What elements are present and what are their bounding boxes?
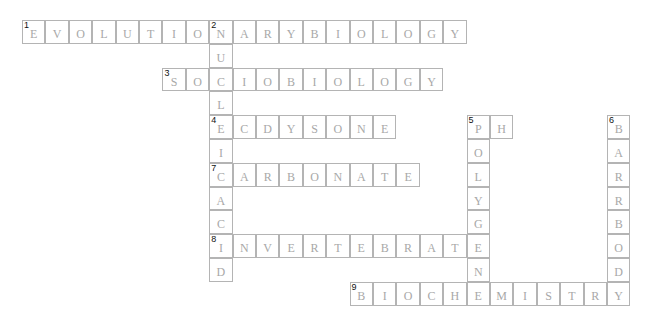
crossword-cell[interactable]: Y — [420, 68, 443, 92]
crossword-cell[interactable]: B — [303, 20, 326, 44]
crossword-cell[interactable]: R — [584, 282, 607, 306]
crossword-cell[interactable]: Y — [279, 20, 302, 44]
crossword-cell[interactable]: O — [396, 282, 419, 306]
crossword-cell[interactable]: G — [396, 68, 419, 92]
crossword-cell[interactable]: I — [373, 282, 396, 306]
crossword-cell[interactable]: 4E — [209, 115, 232, 139]
crossword-cell[interactable]: U — [116, 20, 139, 44]
crossword-cell[interactable]: A — [420, 234, 443, 258]
crossword-cell[interactable]: E — [396, 163, 419, 187]
crossword-cell[interactable]: O — [326, 68, 349, 92]
crossword-cell[interactable]: L — [373, 20, 396, 44]
crossword-cell[interactable]: R — [303, 234, 326, 258]
cell-letter: R — [257, 26, 278, 42]
crossword-cell[interactable]: A — [233, 20, 256, 44]
crossword-cell[interactable]: E — [350, 234, 373, 258]
crossword-cell[interactable]: L — [467, 163, 490, 187]
crossword-cell[interactable]: C — [420, 282, 443, 306]
crossword-cell[interactable]: V — [256, 234, 279, 258]
crossword-cell[interactable]: T — [139, 20, 162, 44]
crossword-cell[interactable]: I — [303, 68, 326, 92]
crossword-cell[interactable]: E — [279, 234, 302, 258]
crossword-cell[interactable]: C — [209, 210, 232, 234]
crossword-cell[interactable]: B — [607, 210, 630, 234]
crossword-cell[interactable]: 1E — [22, 20, 45, 44]
crossword-cell[interactable]: I — [209, 139, 232, 163]
crossword-cell[interactable]: L — [209, 91, 232, 115]
crossword-cell[interactable]: T — [373, 163, 396, 187]
crossword-cell[interactable]: N — [326, 163, 349, 187]
crossword-cell[interactable]: D — [209, 258, 232, 282]
crossword-cell[interactable]: H — [443, 282, 466, 306]
crossword-cell[interactable]: R — [256, 20, 279, 44]
crossword-cell[interactable]: R — [607, 163, 630, 187]
crossword-cell[interactable]: I — [233, 68, 256, 92]
cell-letter: N — [234, 240, 255, 256]
crossword-cell[interactable]: T — [443, 234, 466, 258]
crossword-cell[interactable]: E — [467, 282, 490, 306]
crossword-cell[interactable]: 9B — [350, 282, 373, 306]
cell-letter: A — [351, 169, 372, 185]
crossword-cell[interactable]: D — [607, 258, 630, 282]
crossword-cell[interactable]: E — [467, 234, 490, 258]
crossword-cell[interactable]: G — [420, 20, 443, 44]
crossword-cell[interactable]: 2N — [209, 20, 232, 44]
crossword-cell[interactable]: N — [467, 258, 490, 282]
crossword-cell[interactable]: O — [396, 20, 419, 44]
crossword-cell[interactable]: V — [45, 20, 68, 44]
crossword-cell[interactable]: A — [209, 187, 232, 211]
crossword-cell[interactable]: I — [326, 20, 349, 44]
crossword-cell[interactable]: T — [326, 234, 349, 258]
crossword-cell[interactable]: O — [186, 68, 209, 92]
crossword-cell[interactable]: Y — [279, 115, 302, 139]
crossword-cell[interactable]: I — [513, 282, 536, 306]
crossword-cell[interactable]: T — [560, 282, 583, 306]
crossword-cell[interactable]: I — [162, 20, 185, 44]
crossword-cell[interactable]: C — [233, 115, 256, 139]
crossword-cell[interactable]: O — [467, 139, 490, 163]
crossword-cell[interactable]: S — [303, 115, 326, 139]
cell-letter: U — [210, 50, 231, 66]
crossword-cell[interactable]: E — [373, 115, 396, 139]
crossword-cell[interactable]: N — [350, 115, 373, 139]
crossword-cell[interactable]: B — [279, 163, 302, 187]
crossword-cell[interactable]: O — [69, 20, 92, 44]
crossword-cell[interactable]: D — [256, 115, 279, 139]
crossword-cell[interactable]: B — [279, 68, 302, 92]
crossword-cell[interactable]: Y — [443, 20, 466, 44]
crossword-cell[interactable]: 5P — [467, 115, 490, 139]
crossword-cell[interactable]: N — [233, 234, 256, 258]
crossword-cell[interactable]: 3S — [162, 68, 185, 92]
crossword-cell[interactable]: Y — [467, 187, 490, 211]
crossword-cell[interactable]: O — [350, 20, 373, 44]
crossword-cell[interactable]: R — [256, 163, 279, 187]
crossword-cell[interactable]: 6B — [607, 115, 630, 139]
crossword-cell[interactable]: O — [303, 163, 326, 187]
crossword-cell[interactable]: Y — [607, 282, 630, 306]
crossword-cell[interactable]: 8I — [209, 234, 232, 258]
crossword-cell[interactable]: 7C — [209, 163, 232, 187]
crossword-cell[interactable]: A — [233, 163, 256, 187]
crossword-cell[interactable]: O — [256, 68, 279, 92]
crossword-cell[interactable]: O — [607, 234, 630, 258]
crossword-cell[interactable]: O — [373, 68, 396, 92]
crossword-cell[interactable]: B — [373, 234, 396, 258]
cell-letter: C — [210, 169, 231, 185]
cell-letter: Y — [468, 193, 489, 209]
crossword-cell[interactable]: S — [537, 282, 560, 306]
cell-letter: C — [421, 288, 442, 304]
crossword-cell[interactable]: M — [490, 282, 513, 306]
crossword-cell[interactable]: R — [396, 234, 419, 258]
crossword-cell[interactable]: L — [92, 20, 115, 44]
crossword-cell[interactable]: C — [209, 68, 232, 92]
crossword-cell[interactable]: O — [186, 20, 209, 44]
crossword-cell[interactable]: A — [607, 139, 630, 163]
crossword-cell[interactable]: G — [467, 210, 490, 234]
cell-letter: N — [468, 264, 489, 280]
crossword-cell[interactable]: A — [350, 163, 373, 187]
crossword-cell[interactable]: L — [350, 68, 373, 92]
crossword-cell[interactable]: H — [490, 115, 513, 139]
crossword-cell[interactable]: U — [209, 44, 232, 68]
crossword-cell[interactable]: R — [607, 187, 630, 211]
crossword-cell[interactable]: O — [326, 115, 349, 139]
